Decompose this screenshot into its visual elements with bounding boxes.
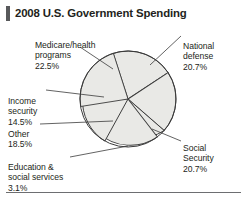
slice-label-income-name: Income security [8, 96, 37, 116]
slice-label-social-security-pct: 20.7% [183, 164, 245, 174]
slice-label-medicare-pct: 22.5% [35, 61, 121, 71]
slice-label-national-defense: National defense 20.7% [183, 31, 245, 82]
slice-label-defense-pct: 20.7% [183, 62, 245, 72]
slice-label-medicare-name: Medicare/health programs [35, 40, 95, 60]
bottom-divider [6, 192, 241, 193]
slice-label-social-security-name: Social Security [183, 143, 214, 163]
slice-label-social-security: Social Security 20.7% [183, 133, 245, 184]
slice-label-medicare-health-programs: Medicare/health programs 22.5% [35, 30, 121, 81]
slice-label-education-social-services: Education & social services 3.1% [8, 152, 94, 202]
slice-label-other-pct: 18.5% [8, 139, 70, 149]
slice-label-other-name: Other [8, 129, 29, 139]
figure-pie-chart-government-spending: 2008 U.S. Government Spending [0, 0, 247, 202]
slice-label-education-name: Education & social services [8, 162, 63, 182]
slice-label-defense-name: National defense [183, 41, 214, 61]
leader-line-defense [150, 36, 181, 65]
